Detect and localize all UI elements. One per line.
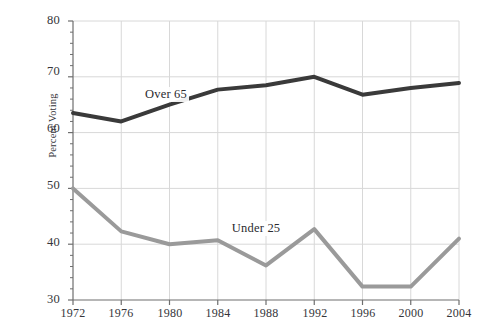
plot-area [0,0,492,333]
y-tick-label-30: 30 [30,292,60,307]
x-tick-label-1996: 1996 [340,306,386,321]
x-tick-label-1980: 1980 [147,306,193,321]
x-tick-label-1988: 1988 [243,306,289,321]
x-tick-label-1984: 1984 [195,306,241,321]
x-tick-label-1992: 1992 [292,306,338,321]
x-tick-label-1976: 1976 [98,306,144,321]
y-tick-label-60: 60 [30,121,60,136]
chart-container: Percent Voting 80 70 60 50 40 30 1972 19… [0,0,492,333]
y-tick-label-40: 40 [30,235,60,250]
series-label-over-65: Over 65 [143,87,189,102]
y-tick-label-50: 50 [30,178,60,193]
series-label-under-25: Under 25 [230,221,282,236]
x-tick-label-2000: 2000 [388,306,434,321]
y-tick-label-80: 80 [30,13,60,28]
y-tick-label-70: 70 [30,64,60,79]
x-tick-label-1972: 1972 [50,306,96,321]
x-tick-label-2004: 2004 [436,306,482,321]
gridlines [73,21,459,300]
